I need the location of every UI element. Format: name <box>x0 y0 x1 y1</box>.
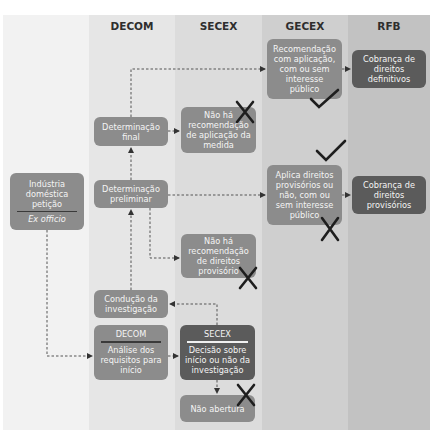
box-nao-abertura: Não abertura <box>180 395 255 422</box>
secex-norec-final-line1: Não há <box>204 110 233 120</box>
gecex-rec-line1: Recomendação <box>273 44 336 54</box>
det-final-line1: Determinação <box>102 122 160 132</box>
rfb-def-line1: Cobrança de <box>363 54 415 64</box>
box-determinacao-preliminar: Determinação preliminar <box>94 180 168 208</box>
box-conducao-investigacao: Condução da investigação <box>94 290 168 318</box>
gecex-prov-line4: sem interesse <box>276 200 333 210</box>
origin-alt: Ex officio <box>28 214 66 224</box>
box-origin-petition: Indústria doméstica petição Ex officio <box>10 173 84 230</box>
box-secex-decisao: SECEX Decisão sobre início ou não da inv… <box>180 325 255 380</box>
secex-norec-prov-line3: de direitos <box>197 256 240 266</box>
divider <box>17 211 77 213</box>
gecex-rec-line4: interesse <box>286 74 324 84</box>
secex-decisao-line3: investigação <box>192 365 244 375</box>
secex-norec-final-line3: de aplicação da <box>186 130 250 140</box>
gecex-prov-line2: provisórios ou <box>276 180 334 190</box>
gecex-prov-line1: Aplica direitos <box>276 170 334 180</box>
secex-norec-prov-line2: recomendação <box>188 246 249 256</box>
decom-analise-line3: início <box>120 365 142 375</box>
decom-analise-line2: requisitos para <box>100 355 161 365</box>
lane-header-gecex: GECEX <box>262 20 348 32</box>
secex-decisao-line2: início ou não da <box>185 355 250 365</box>
gecex-rec-line5: público <box>290 84 320 94</box>
lane-header-rfb: RFB <box>348 20 430 32</box>
secex-norec-prov-line1: Não há <box>204 236 233 246</box>
origin-line3: petição <box>32 199 62 209</box>
secex-norec-final-line2: recomendação <box>188 120 249 130</box>
box-rfb-definitivos: Cobrança de direitos definitivos <box>352 50 426 88</box>
secex-decisao-header: SECEX <box>204 329 231 339</box>
rfb-prov-line2: direitos <box>374 190 404 200</box>
divider <box>187 341 248 343</box>
conducao-line2: investigação <box>105 304 157 314</box>
secex-norec-prov-line4: provisório <box>198 266 238 276</box>
box-decom-analise: DECOM Análise dos requisitos para início <box>94 325 168 380</box>
rfb-def-line2: direitos <box>374 64 404 74</box>
divider <box>101 341 161 343</box>
box-gecex-provisorios: Aplica direitos provisórios ou não, com … <box>267 165 342 225</box>
lane-header-decom: DECOM <box>89 20 175 32</box>
flowchart: DECOM SECEX GECEX RFB Indústria doméstic… <box>0 0 437 441</box>
box-secex-sem-recomendacao-provisorio: Não há recomendação de direitos provisór… <box>181 234 256 278</box>
decom-analise-header: DECOM <box>116 329 147 339</box>
det-prelim-line1: Determinação <box>102 184 160 194</box>
box-determinacao-final: Determinação final <box>94 117 168 146</box>
rfb-prov-line1: Cobrança de <box>363 180 415 190</box>
gecex-rec-line3: com ou sem <box>279 64 329 74</box>
conducao-line1: Condução da <box>104 294 158 304</box>
box-rfb-provisorios: Cobrança de direitos provisórios <box>352 176 426 214</box>
box-gecex-recomendacao: Recomendação com aplicação, com ou sem i… <box>267 39 342 99</box>
secex-norec-final-line4: medida <box>203 140 234 150</box>
lane-header-secex: SECEX <box>175 20 262 32</box>
secex-decisao-line1: Decisão sobre <box>189 345 247 355</box>
det-final-line2: final <box>122 132 140 142</box>
origin-line1: Indústria <box>29 179 65 189</box>
gecex-prov-line3: não, com ou <box>279 190 330 200</box>
rfb-def-line3: definitivos <box>368 74 410 84</box>
det-prelim-line2: preliminar <box>110 194 152 204</box>
gecex-rec-line2: com aplicação, <box>274 54 336 64</box>
box-secex-sem-recomendacao-medida: Não há recomendação de aplicação da medi… <box>181 107 256 153</box>
origin-line2: doméstica <box>26 189 69 199</box>
rfb-prov-line3: provisórios <box>367 200 412 210</box>
nao-abertura-label: Não abertura <box>190 404 244 414</box>
gecex-prov-line5: público <box>290 210 320 220</box>
decom-analise-line1: Análise dos <box>108 345 155 355</box>
